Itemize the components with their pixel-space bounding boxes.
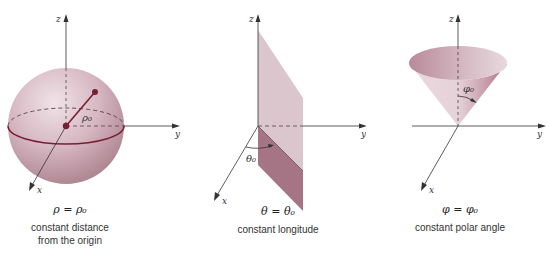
- sphere-panel: ρ₀ z y x ρ = ρ₀ constant distance from t…: [0, 0, 183, 256]
- half-plane-caption: constant longitude: [218, 223, 338, 236]
- x-axis-label: x: [37, 185, 42, 195]
- half-plane-equation: θ = θ₀: [228, 205, 328, 218]
- cone-equation: φ = φ₀: [410, 203, 510, 216]
- half-plane-panel: θ₀ z y x θ = θ₀ constant longitude: [183, 0, 366, 256]
- z-axis-label: z: [248, 14, 254, 24]
- rho0-label: ρ₀: [81, 112, 92, 123]
- x-axis: [423, 126, 458, 187]
- cone-diagram: φ₀ z y x: [360, 0, 549, 256]
- x-axis-label: x: [429, 185, 434, 195]
- cone-caption: constant polar angle: [395, 221, 525, 234]
- sphere-diagram: ρ₀ z y x: [0, 0, 183, 256]
- sphere-caption-line2: from the origin: [10, 234, 130, 247]
- y-axis-label: y: [536, 129, 543, 139]
- sphere-equation: ρ = ρ₀: [20, 203, 120, 216]
- cone-opening: [409, 46, 507, 80]
- x-axis-label: x: [222, 196, 227, 206]
- y-axis-label: y: [174, 129, 181, 139]
- z-axis-label: z: [448, 14, 454, 24]
- surface-point: [92, 89, 98, 95]
- cone-panel: φ₀ z y x φ = φ₀ constant polar angle: [360, 0, 549, 256]
- origin-point: [63, 123, 69, 129]
- theta0-label: θ₀: [246, 153, 256, 164]
- z-axis-label: z: [55, 14, 61, 24]
- sphere-caption-line1: constant distance: [10, 221, 130, 234]
- phi0-label: φ₀: [463, 83, 474, 94]
